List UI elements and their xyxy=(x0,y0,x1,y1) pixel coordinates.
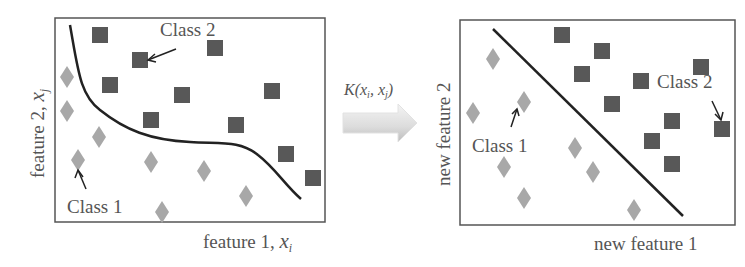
right-arrow-icon xyxy=(343,104,417,142)
square-marker xyxy=(664,113,680,129)
square-marker xyxy=(305,170,321,186)
square-marker xyxy=(574,66,590,82)
left-y-axis-label: feature 2, xj xyxy=(25,88,51,178)
kernel-function-label: K(xi, xj) xyxy=(343,81,393,100)
right-class2-label: Class 2 xyxy=(657,71,712,92)
right-x-axis-label: new feature 1 xyxy=(594,233,697,254)
square-marker xyxy=(604,96,620,112)
square-marker xyxy=(92,27,108,43)
right-panel: Class 2 Class 1 new feature 1 new featur… xyxy=(433,20,735,254)
square-marker xyxy=(174,87,190,103)
square-marker xyxy=(102,77,118,93)
square-marker xyxy=(264,83,280,99)
kernel-transform: K(xi, xj) xyxy=(343,81,417,142)
square-marker xyxy=(633,73,649,89)
square-marker xyxy=(278,146,294,162)
square-marker xyxy=(143,112,159,128)
right-y-axis-label: new feature 2 xyxy=(433,83,454,186)
left-panel: Class 2 Class 1 feature 1, xi feature 2,… xyxy=(25,18,325,255)
square-marker xyxy=(714,121,730,137)
left-class1-label: Class 1 xyxy=(67,196,122,217)
square-marker xyxy=(554,27,570,43)
left-class2-label: Class 2 xyxy=(160,19,215,40)
square-marker xyxy=(207,40,223,56)
square-marker xyxy=(644,133,660,149)
square-marker xyxy=(664,156,680,172)
square-marker xyxy=(228,117,244,133)
square-marker xyxy=(132,52,148,68)
left-plot-frame xyxy=(55,18,325,222)
kernel-trick-diagram: Class 2 Class 1 feature 1, xi feature 2,… xyxy=(0,0,745,267)
square-marker xyxy=(594,43,610,59)
left-x-axis-label: feature 1, xi xyxy=(203,229,292,255)
right-class1-label: Class 1 xyxy=(472,135,527,156)
